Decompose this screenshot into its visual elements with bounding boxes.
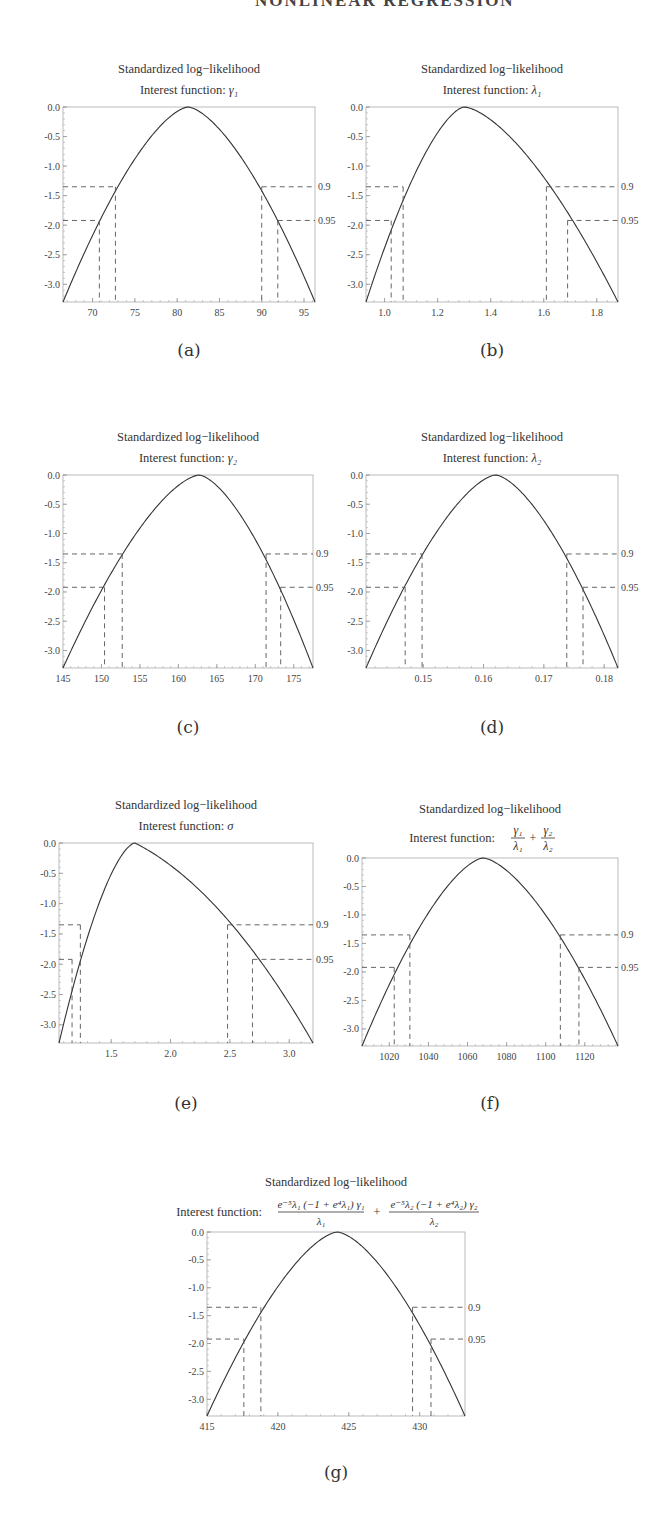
- svg-text:1.4: 1.4: [484, 307, 497, 318]
- svg-text:2.0: 2.0: [164, 1048, 177, 1059]
- svg-text:0.0: 0.0: [48, 102, 61, 113]
- confidence-level-label: 0.9: [316, 548, 329, 559]
- svg-text:Interest function: γ₁: Interest function: γ₁: [140, 83, 238, 97]
- svg-text:-2.5: -2.5: [40, 989, 56, 1000]
- svg-text:λ₂: λ₂: [429, 1215, 439, 1227]
- caption-a: (a): [177, 340, 200, 360]
- svg-text:-0.5: -0.5: [40, 868, 56, 879]
- svg-text:-1.5: -1.5: [40, 928, 56, 939]
- svg-text:150: 150: [94, 673, 109, 684]
- svg-text:-2.0: -2.0: [347, 586, 363, 597]
- confidence-level-label: 0.95: [621, 582, 639, 593]
- chart-b: Standardized log−likelihoodInterest func…: [347, 62, 638, 318]
- svg-text:415: 415: [200, 1421, 215, 1432]
- svg-text:-2.5: -2.5: [188, 1366, 204, 1377]
- caption-g: (g): [324, 1462, 348, 1482]
- confidence-level-label: 0.9: [621, 548, 634, 559]
- plot-frame: [59, 843, 313, 1043]
- svg-text:-1.0: -1.0: [40, 898, 56, 909]
- svg-text:170: 170: [248, 673, 263, 684]
- svg-text:0.0: 0.0: [351, 470, 364, 481]
- chart-c: Standardized log−likelihoodInterest func…: [44, 430, 333, 684]
- svg-text:-2.0: -2.0: [40, 959, 56, 970]
- svg-text:75: 75: [130, 307, 140, 318]
- plot-frame: [63, 475, 313, 668]
- svg-text:0.0: 0.0: [44, 838, 57, 849]
- svg-text:-1.5: -1.5: [347, 557, 363, 568]
- svg-text:1.2: 1.2: [431, 307, 444, 318]
- svg-text:λ₁: λ₁: [512, 839, 522, 853]
- svg-text:-2.5: -2.5: [44, 249, 60, 260]
- likelihood-curve: [366, 107, 618, 302]
- svg-text:-2.5: -2.5: [44, 616, 60, 627]
- figure-panel: Standardized log−likelihoodInterest func…: [0, 0, 664, 1532]
- confidence-level-label: 0.9: [316, 919, 329, 930]
- svg-text:90: 90: [257, 307, 267, 318]
- svg-text:165: 165: [209, 673, 224, 684]
- svg-text:1100: 1100: [536, 1051, 556, 1062]
- caption-c: (c): [177, 717, 200, 737]
- svg-text:0.0: 0.0: [347, 853, 360, 864]
- chart-e: Standardized log−likelihoodInterest func…: [40, 798, 333, 1059]
- svg-text:-1.0: -1.0: [188, 1282, 204, 1293]
- svg-text:-1.0: -1.0: [347, 161, 363, 172]
- svg-text:-1.5: -1.5: [44, 190, 60, 201]
- confidence-level-label: 0.9: [468, 1302, 481, 1313]
- confidence-level-label: 0.95: [621, 962, 639, 973]
- chart-title: Standardized log−likelihood: [421, 430, 564, 444]
- svg-text:-2.0: -2.0: [188, 1338, 204, 1349]
- svg-text:+: +: [374, 1205, 381, 1219]
- confidence-level-label: 0.9: [621, 929, 634, 940]
- svg-text:-1.5: -1.5: [44, 557, 60, 568]
- likelihood-curve: [63, 107, 315, 302]
- svg-text:-0.5: -0.5: [347, 131, 363, 142]
- svg-text:1.5: 1.5: [105, 1048, 118, 1059]
- svg-text:e⁻⁵λ₁ (−1 + e⁴λ₁) γ₁: e⁻⁵λ₁ (−1 + e⁴λ₁) γ₁: [277, 1198, 364, 1211]
- svg-text:1120: 1120: [575, 1051, 595, 1062]
- svg-text:-0.5: -0.5: [347, 499, 363, 510]
- svg-text:Interest function: γ₂: Interest function: γ₂: [139, 451, 238, 465]
- svg-text:430: 430: [412, 1421, 427, 1432]
- svg-text:+: +: [530, 831, 537, 845]
- confidence-level-label: 0.95: [318, 215, 336, 226]
- svg-text:0.0: 0.0: [48, 470, 61, 481]
- svg-text:-2.5: -2.5: [347, 616, 363, 627]
- svg-text:-2.5: -2.5: [347, 249, 363, 260]
- chart-title: Standardized log−likelihood: [115, 798, 258, 812]
- svg-text:-0.5: -0.5: [343, 881, 359, 892]
- svg-text:1.8: 1.8: [591, 307, 604, 318]
- svg-text:-1.5: -1.5: [343, 938, 359, 949]
- svg-text:1.6: 1.6: [537, 307, 550, 318]
- svg-text:γ₁: γ₁: [514, 823, 523, 837]
- svg-text:0.18: 0.18: [595, 673, 613, 684]
- svg-text:-0.5: -0.5: [188, 1254, 204, 1265]
- likelihood-curve: [366, 475, 618, 668]
- svg-text:-3.0: -3.0: [347, 279, 363, 290]
- chart-g: Standardized log−likelihoodInterest func…: [176, 1175, 485, 1432]
- plot-frame: [366, 475, 618, 668]
- svg-text:1060: 1060: [458, 1051, 478, 1062]
- plot-frame: [366, 107, 618, 302]
- svg-text:2.5: 2.5: [224, 1048, 237, 1059]
- confidence-level-label: 0.95: [468, 1334, 486, 1345]
- svg-text:-3.0: -3.0: [44, 279, 60, 290]
- plot-frame: [362, 858, 618, 1046]
- likelihood-curve: [59, 843, 313, 1043]
- confidence-level-label: 0.9: [621, 181, 634, 192]
- svg-text:λ₁: λ₁: [316, 1215, 326, 1227]
- svg-text:0.15: 0.15: [415, 673, 433, 684]
- plot-frame: [207, 1232, 465, 1416]
- likelihood-curve: [63, 475, 313, 668]
- svg-text:155: 155: [132, 673, 147, 684]
- svg-text:70: 70: [88, 307, 98, 318]
- likelihood-curve: [207, 1232, 465, 1416]
- svg-text:0.17: 0.17: [535, 673, 553, 684]
- confidence-level-label: 0.95: [316, 954, 334, 965]
- svg-text:-1.0: -1.0: [347, 528, 363, 539]
- svg-text:95: 95: [299, 307, 309, 318]
- svg-text:0.0: 0.0: [351, 102, 364, 113]
- svg-text:-3.0: -3.0: [188, 1394, 204, 1405]
- svg-text:-1.5: -1.5: [347, 190, 363, 201]
- svg-text:Interest function: σ: Interest function: σ: [138, 819, 234, 833]
- svg-text:-3.0: -3.0: [44, 645, 60, 656]
